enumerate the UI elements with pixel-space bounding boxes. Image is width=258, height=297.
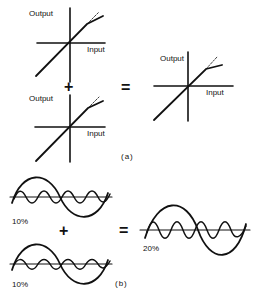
x-axis-label: Input xyxy=(87,129,106,138)
plus-operator: + xyxy=(64,78,73,95)
wave-b1 xyxy=(10,177,112,216)
caption-b: (b) xyxy=(115,279,128,288)
equals-operator: = xyxy=(121,79,130,96)
caption-a: (a) xyxy=(121,152,134,161)
wave-label: 20% xyxy=(143,244,159,253)
diagram-canvas: Output Input Output Input Output Input +… xyxy=(0,0,258,297)
x-axis-label: Input xyxy=(206,88,225,97)
wave-b2 xyxy=(10,244,112,283)
x-axis-label: Input xyxy=(87,45,106,54)
wave-label: 10% xyxy=(12,280,28,289)
wave-label: 10% xyxy=(12,217,28,226)
equals-operator: = xyxy=(119,222,128,239)
y-axis-label: Output xyxy=(29,9,54,18)
y-axis-label: Output xyxy=(160,54,185,63)
y-axis-label: Output xyxy=(29,94,54,103)
plus-operator: + xyxy=(59,222,68,239)
